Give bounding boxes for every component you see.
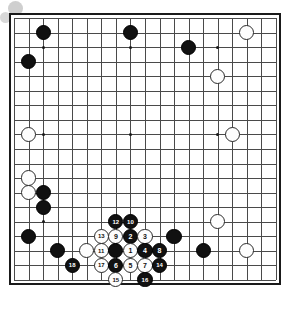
stone-black[interactable]	[166, 229, 181, 244]
grid-line-vertical	[14, 18, 15, 280]
star-point	[216, 46, 219, 49]
move-number: 6	[114, 262, 118, 269]
grid-line-vertical	[247, 18, 248, 280]
star-point	[129, 46, 132, 49]
grid-line-vertical	[43, 18, 44, 280]
go-diagram: A121013923111481765714181516	[0, 0, 296, 316]
stone-black[interactable]	[196, 243, 211, 258]
stone-white[interactable]	[21, 170, 36, 185]
stone-black[interactable]	[36, 25, 51, 40]
stone-black-move-2[interactable]: 2	[123, 229, 138, 244]
move-number: 15	[113, 277, 120, 283]
grid-line-vertical	[58, 18, 59, 280]
stone-black-move-16[interactable]: 16	[137, 272, 152, 287]
stone-black[interactable]	[36, 185, 51, 200]
move-number: 9	[114, 233, 118, 240]
stone-black-move-4[interactable]: 4	[137, 243, 152, 258]
move-number: 5	[128, 262, 132, 269]
move-number: 12	[113, 219, 120, 225]
star-point	[129, 133, 132, 136]
grid-line-vertical	[87, 18, 88, 280]
stone-black[interactable]	[181, 40, 196, 55]
grid-line-vertical	[261, 18, 262, 280]
star-point	[42, 220, 45, 223]
go-board[interactable]: A121013923111481765714181516	[9, 13, 281, 285]
grid-line-vertical	[203, 18, 204, 280]
move-number: 3	[143, 233, 147, 240]
stone-white[interactable]	[21, 127, 36, 142]
move-number: 11	[98, 248, 104, 254]
stone-black-move-18[interactable]: 18	[65, 258, 80, 273]
grid-line-vertical	[189, 18, 190, 280]
move-number: 10	[127, 219, 134, 225]
move-number: 1	[128, 247, 132, 254]
star-point	[42, 46, 45, 49]
stone-white-move-3[interactable]: 3	[137, 229, 152, 244]
stone-white-move-17[interactable]: 17	[94, 258, 109, 273]
move-number: 18	[69, 262, 76, 268]
grid-line-vertical	[276, 18, 277, 280]
move-number: 14	[156, 262, 163, 268]
grid-line-vertical	[72, 18, 73, 280]
stone-black[interactable]	[21, 229, 36, 244]
stone-white[interactable]	[210, 69, 225, 84]
stone-white-move-5[interactable]: 5	[123, 258, 138, 273]
star-point	[42, 133, 45, 136]
grid-line-vertical	[218, 18, 219, 280]
stone-white[interactable]	[225, 127, 240, 142]
move-number: 2	[128, 233, 132, 240]
stone-black[interactable]	[36, 200, 51, 215]
move-number: 13	[98, 233, 105, 239]
stone-black-move-14[interactable]: 14	[152, 258, 167, 273]
move-number: 17	[98, 262, 105, 268]
move-number: 4	[143, 247, 147, 254]
move-number: 8	[158, 247, 162, 254]
grid-line-vertical	[160, 18, 161, 280]
move-number: 16	[142, 277, 149, 283]
stone-white-move-15[interactable]: 15	[108, 272, 123, 287]
stone-white-move-13[interactable]: 13	[94, 229, 109, 244]
stone-white-move-7[interactable]: 7	[137, 258, 152, 273]
move-number: 7	[143, 262, 147, 269]
grid-line-vertical	[232, 18, 233, 280]
stone-black[interactable]	[123, 25, 138, 40]
